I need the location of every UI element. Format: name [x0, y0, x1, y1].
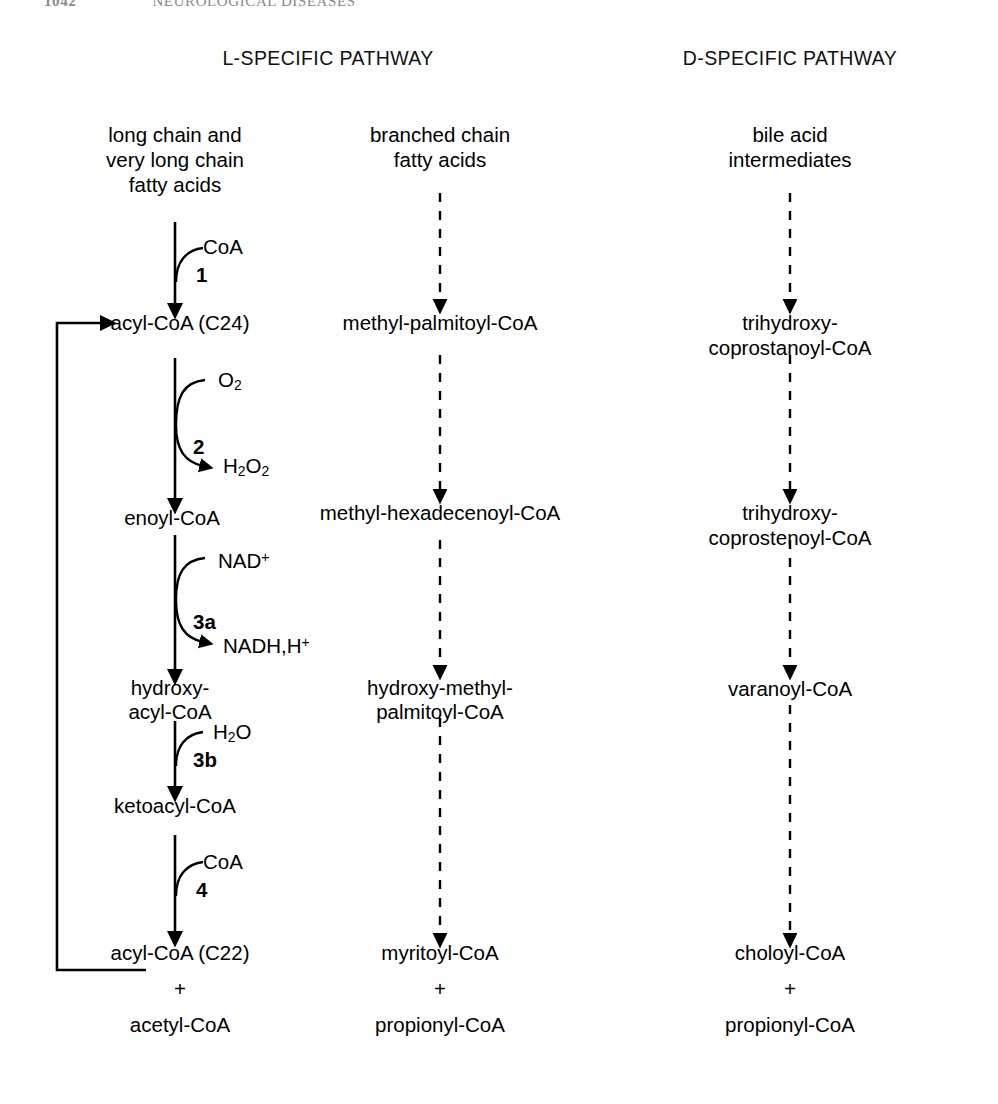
step-number-3b: 3b: [193, 750, 217, 771]
nadh-text: NADH,H: [223, 634, 302, 657]
node-right-substrate: bile acid intermediates: [728, 122, 851, 172]
nad-superscript: +: [261, 549, 269, 565]
h2o2-h: H: [223, 454, 238, 477]
h2o-subscript: 2: [228, 729, 236, 745]
node-hydroxy-methyl-palmitoyl-coa: hydroxy-methyl- palmitoyl-CoA: [367, 676, 513, 724]
header-l-specific-pathway: L-SPECIFIC PATHWAY: [178, 47, 478, 70]
step-number-2: 2: [193, 437, 204, 458]
node-middle-propionyl-coa: propionyl-CoA: [375, 1012, 505, 1037]
h2o-o: O: [236, 720, 252, 743]
node-hydroxy-acyl-coa: hydroxy- acyl-CoA: [128, 676, 211, 724]
cofactor-h2o2: H2O2: [223, 455, 269, 482]
node-right-propionyl-coa: propionyl-CoA: [725, 1012, 855, 1037]
nadh-superscript: +: [302, 634, 310, 650]
curve-o2-in: [176, 380, 205, 425]
node-trihydroxy-coprostenoyl-coa: trihydroxy-coprostenoyl-CoA: [686, 500, 894, 550]
node-methyl-hexadecenoyl-coa: methyl-hexadecenoyl-CoA: [320, 500, 560, 525]
o2-element: O: [218, 368, 234, 391]
running-head-title: NEUROLOGICAL DISEASES: [152, 0, 355, 9]
node-trihydroxy-coprostanoyl-coa: trihydroxy-coprostanoyl-CoA: [686, 310, 894, 360]
cofactor-coa-step-4: CoA: [203, 851, 243, 873]
step-number-4: 4: [196, 880, 207, 901]
recycle-loop-path: [57, 323, 146, 970]
pathway-figure: 1042NEUROLOGICAL DISEASES: [0, 0, 998, 1104]
header-d-specific-pathway: D-SPECIFIC PATHWAY: [640, 47, 940, 70]
node-methyl-palmitoyl-coa: methyl-palmitoyl-CoA: [343, 310, 538, 335]
h2o2-sub-2: 2: [262, 463, 270, 479]
node-acyl-coa-c22: acyl-CoA (C22): [111, 940, 250, 965]
nad-text: NAD: [218, 549, 261, 572]
page-folio: 1042: [44, 0, 76, 9]
cofactor-nad-plus: NAD+: [218, 546, 269, 572]
h2o2-o: O: [246, 454, 262, 477]
node-left-substrate: long chain and very long chain fatty aci…: [106, 122, 244, 197]
cofactor-o2: O2: [218, 369, 242, 396]
node-middle-substrate: branched chain fatty acids: [370, 122, 510, 172]
node-myritoyl-coa: myritoyl-CoA: [381, 940, 498, 965]
h2o-h: H: [213, 720, 228, 743]
running-head: 1042NEUROLOGICAL DISEASES: [44, 0, 604, 10]
node-choloyl-coa: choloyl-CoA: [735, 940, 846, 965]
node-varanoyl-coa: varanoyl-CoA: [728, 676, 852, 701]
node-enoyl-coa: enoyl-CoA: [124, 505, 220, 530]
node-middle-plus: +: [434, 976, 446, 1001]
step-number-1: 1: [196, 265, 207, 286]
node-left-plus: +: [174, 976, 186, 1001]
step-number-3a: 3a: [193, 612, 216, 633]
cofactor-h2o: H2O: [213, 721, 252, 748]
node-right-plus: +: [784, 976, 796, 1001]
cofactor-coa-step-1: CoA: [203, 236, 243, 258]
o2-subscript: 2: [234, 377, 242, 393]
node-ketoacyl-coa: ketoacyl-CoA: [114, 793, 236, 818]
node-acyl-coa-c24: acyl-CoA (C24): [111, 310, 250, 335]
curve-nad-in: [176, 558, 205, 600]
cofactor-nadh-h: NADH,H+: [223, 631, 310, 657]
h2o2-sub-1: 2: [238, 463, 246, 479]
node-acetyl-coa: acetyl-CoA: [130, 1012, 230, 1037]
